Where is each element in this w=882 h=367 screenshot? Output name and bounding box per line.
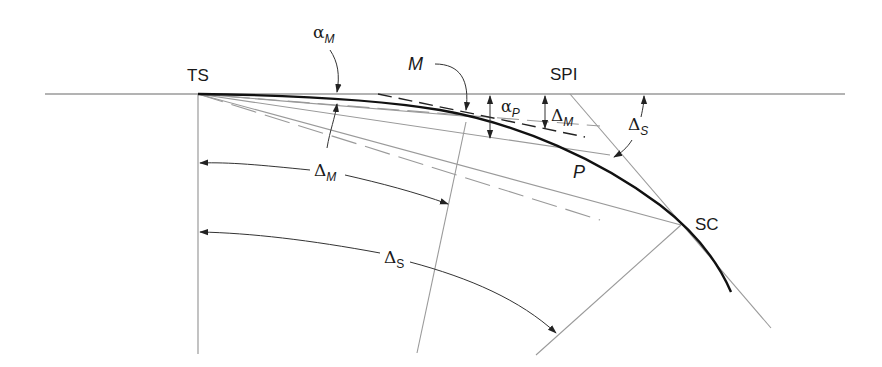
delta-m-arc-left bbox=[200, 163, 310, 170]
chord-ts-p bbox=[198, 94, 610, 155]
delta-s-arc-left bbox=[200, 232, 380, 253]
label-delta-s-top: ΔS bbox=[628, 114, 648, 138]
spiral-curve-diagram: TS SPI SC M P αM αP ΔM ΔS ΔM ΔS bbox=[0, 0, 882, 367]
label-delta-m-arc: ΔM bbox=[314, 160, 336, 184]
sc-tangent-line bbox=[570, 94, 771, 328]
label-m: M bbox=[408, 54, 423, 74]
label-delta-m-top: ΔM bbox=[551, 105, 573, 129]
label-alpha-m: αM bbox=[313, 22, 334, 46]
m-leader-arrow bbox=[435, 64, 467, 110]
delta-s-arc-right bbox=[410, 262, 556, 333]
delta-s-top-arrow-up bbox=[641, 96, 644, 117]
label-ts: TS bbox=[187, 66, 209, 85]
delta-m-arc-right bbox=[345, 175, 448, 204]
m-radial-line bbox=[417, 122, 466, 353]
dashed-ray-p bbox=[198, 94, 600, 220]
label-alpha-p: αP bbox=[501, 97, 520, 120]
alpha-m-arrow-down bbox=[330, 50, 338, 92]
alpha-m-arrow-up bbox=[327, 104, 337, 148]
spiral-curve bbox=[198, 94, 731, 292]
label-spi: SPI bbox=[550, 65, 577, 84]
sc-radial-line bbox=[536, 225, 681, 355]
label-delta-s-arc: ΔS bbox=[384, 247, 404, 271]
label-p: P bbox=[573, 162, 585, 182]
label-sc: SC bbox=[695, 215, 719, 234]
